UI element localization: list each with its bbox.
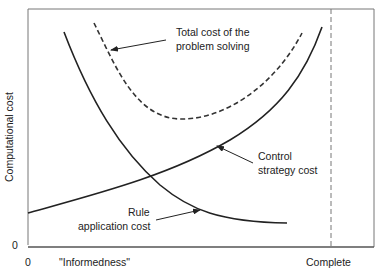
x-axis-zero-tick: 0 xyxy=(25,256,31,269)
x-axis-complete-tick: Complete xyxy=(306,256,351,269)
total-cost-label-line1: Total cost of the xyxy=(176,26,250,39)
total-cost-arrow xyxy=(111,40,166,50)
control-cost-label-line2: strategy cost xyxy=(258,164,318,177)
total-cost-label-line2: problem solving xyxy=(176,40,250,53)
y-axis-label: Computational cost xyxy=(3,92,15,182)
y-axis-zero-tick: 0 xyxy=(12,239,18,252)
control-cost-label-line1: Control xyxy=(258,150,292,163)
control-cost-arrow xyxy=(217,146,253,163)
cost-diagram: Total cost of the problem solving Contro… xyxy=(0,0,386,277)
x-axis-label: "Informedness" xyxy=(59,256,130,269)
rule-cost-label-line2: application cost xyxy=(78,220,150,233)
rule-application-cost-curve xyxy=(64,32,287,223)
rule-cost-arrow xyxy=(156,210,200,220)
control-strategy-cost-curve xyxy=(28,27,322,213)
rule-cost-label-line1: Rule xyxy=(128,206,150,219)
